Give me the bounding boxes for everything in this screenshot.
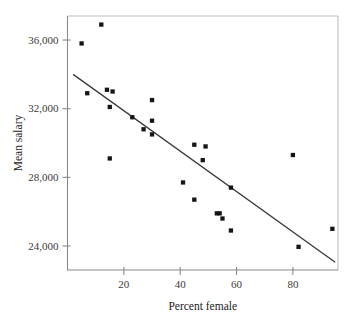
data-point-marker[interactable] (203, 144, 207, 148)
data-point-marker[interactable] (218, 211, 222, 215)
data-point-marker[interactable] (150, 132, 154, 136)
data-point-marker[interactable] (150, 119, 154, 123)
x-tick-label: 60 (231, 278, 243, 290)
data-point-marker[interactable] (192, 197, 196, 201)
regression-trend-line (73, 74, 335, 262)
data-point-marker[interactable] (181, 180, 185, 184)
data-point-marker[interactable] (229, 228, 233, 232)
x-tick-label: 40 (175, 278, 187, 290)
data-point-marker[interactable] (108, 156, 112, 160)
data-point-marker[interactable] (141, 127, 145, 131)
data-point-marker[interactable] (85, 91, 89, 95)
plot-canvas: 24,00028,00032,00036,00020406080Percent … (0, 0, 348, 314)
data-point-marker[interactable] (105, 88, 109, 92)
data-point-marker[interactable] (201, 158, 205, 162)
data-point-marker[interactable] (79, 41, 83, 45)
y-tick-label: 36,000 (28, 34, 59, 46)
data-point-marker[interactable] (150, 98, 154, 102)
y-tick-label: 32,000 (28, 102, 59, 114)
data-point-marker[interactable] (229, 185, 233, 189)
y-axis-title: Mean salary (12, 114, 25, 171)
data-point-marker[interactable] (110, 89, 114, 93)
y-tick-label: 28,000 (28, 171, 59, 183)
data-point-marker[interactable] (192, 143, 196, 147)
x-tick-label: 20 (118, 278, 130, 290)
data-point-marker[interactable] (330, 227, 334, 231)
data-point-marker[interactable] (296, 245, 300, 249)
x-axis-title: Percent female (168, 300, 237, 312)
axis-spines (68, 16, 339, 270)
data-point-marker[interactable] (99, 22, 103, 26)
data-point-marker[interactable] (220, 216, 224, 220)
data-point-marker[interactable] (291, 153, 295, 157)
data-point-marker[interactable] (130, 115, 134, 119)
x-tick-label: 80 (287, 278, 299, 290)
y-tick-label: 24,000 (28, 240, 59, 252)
data-point-marker[interactable] (108, 105, 112, 109)
scatter-plot-figure: 24,00028,00032,00036,00020406080Percent … (0, 0, 348, 314)
